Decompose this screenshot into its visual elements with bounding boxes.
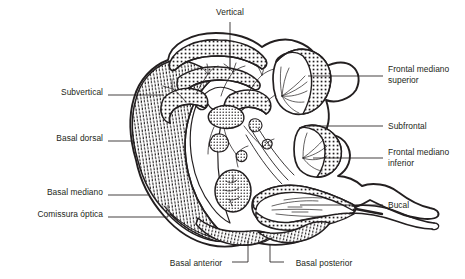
label-frontal-mediano-inferior-line2: inferior bbox=[388, 158, 449, 169]
label-subfrontal: Subfrontal bbox=[388, 121, 427, 132]
label-bucal: Bucal bbox=[388, 200, 409, 211]
label-basal-posterior: Basal posterior bbox=[281, 258, 367, 269]
central-neuropil-bridge bbox=[208, 106, 244, 129]
label-frontal-mediano-inferior: Frontal mediano inferior bbox=[388, 147, 449, 168]
neuropil-island-3 bbox=[249, 119, 262, 132]
neuropil-island-1 bbox=[209, 134, 228, 152]
label-frontal-mediano-inferior-line1: Frontal mediano bbox=[388, 147, 449, 158]
label-basal-anterior: Basal anterior bbox=[155, 258, 237, 269]
label-vertical: Vertical bbox=[200, 7, 260, 18]
label-frontal-mediano-superior-line2: superior bbox=[388, 75, 449, 86]
label-comissura-optica: Comissura óptica bbox=[0, 209, 103, 220]
label-subvertical: Subvertical bbox=[0, 87, 103, 98]
label-frontal-mediano-superior: Frontal mediano superior bbox=[388, 64, 449, 85]
label-basal-mediano: Basal mediano bbox=[0, 187, 103, 198]
label-basal-dorsal: Basal dorsal bbox=[0, 133, 103, 144]
label-frontal-mediano-superior-line1: Frontal mediano bbox=[388, 64, 449, 75]
